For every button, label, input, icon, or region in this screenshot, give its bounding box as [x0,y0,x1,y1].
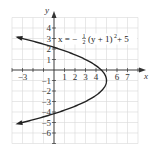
x-axis-label: x [143,71,148,81]
equation-fraction-denominator: 2 [83,39,86,45]
x-tick-label: 3 [83,72,88,82]
y-tick-label: 1 [47,55,52,65]
equation-lhs: x = − [58,34,77,44]
y-tick-label: −3 [41,97,51,107]
y-tick-label: 3 [47,34,52,44]
x-tick-label: 1 [62,72,67,82]
parabola-graph: −31234674321−1−2−3−4−5−6 x y x = − 1 2 (… [0,0,150,157]
y-tick-label: −6 [41,128,51,138]
y-tick-label: −5 [41,118,51,128]
y-tick-label: −1 [41,76,51,86]
x-tick-label: 7 [125,72,130,82]
equation-tail: + 5 [117,34,129,44]
x-tick-label: 2 [73,72,78,82]
equation-label: x = − 1 2 (y + 1) 2 + 5 [57,33,137,45]
equation-rhs: (y + 1) [88,34,113,44]
x-tick-label: 4 [94,72,99,82]
x-tick-label: −3 [18,72,28,82]
y-tick-label: 4 [47,23,52,33]
x-tick-label: 6 [115,72,120,82]
y-axis-arrow-icon [52,11,57,18]
y-axis-label: y [44,5,49,15]
y-tick-label: −2 [41,86,51,96]
